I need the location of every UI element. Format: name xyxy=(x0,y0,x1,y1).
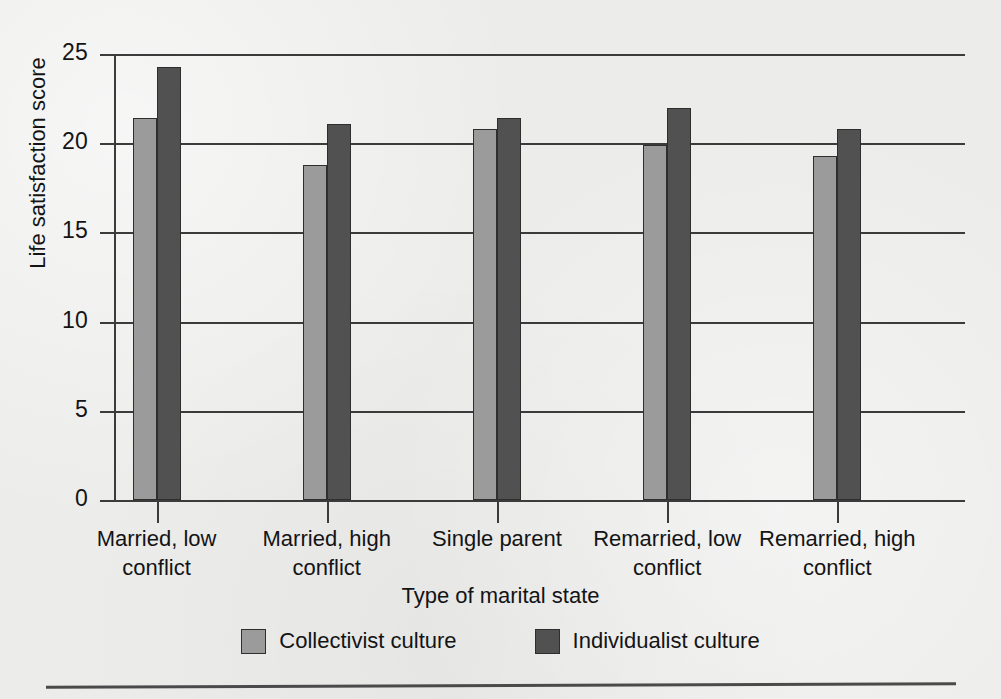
bar-collectivist-0 xyxy=(133,118,157,500)
x-category-label-line1-4: Remarried, high xyxy=(732,524,942,553)
legend-label-0: Collectivist culture xyxy=(279,628,456,654)
x-category-label-4: Remarried, highconflict xyxy=(732,524,942,582)
legend-swatch-icon-0 xyxy=(241,629,266,654)
y-tick-mark-20 xyxy=(100,143,114,145)
y-axis-title: Life satisfaction score xyxy=(25,13,51,313)
bar-chart-figure: 0510152025 Married, lowconflictMarried, … xyxy=(0,0,1001,699)
x-tick-mark-3 xyxy=(667,501,669,523)
y-tick-mark-0 xyxy=(100,500,114,502)
y-tick-mark-5 xyxy=(100,411,114,413)
bar-individualist-1 xyxy=(327,124,351,500)
y-tick-label-5: 5 xyxy=(28,396,88,423)
legend-swatch-icon-1 xyxy=(535,629,560,654)
x-category-label-line2-1: conflict xyxy=(222,553,432,582)
x-axis-title: Type of marital state xyxy=(0,583,1001,609)
x-category-label-line2-4: conflict xyxy=(732,553,942,582)
y-tick-mark-15 xyxy=(100,232,114,234)
legend-item-collectivist: Collectivist culture xyxy=(241,628,456,654)
bar-collectivist-1 xyxy=(303,165,327,500)
bar-collectivist-2 xyxy=(473,129,497,500)
y-tick-mark-10 xyxy=(100,322,114,324)
bar-individualist-2 xyxy=(497,118,521,500)
legend-label-1: Individualist culture xyxy=(573,628,760,654)
bar-individualist-0 xyxy=(157,67,181,501)
x-tick-mark-0 xyxy=(157,501,159,523)
chart-legend: Collectivist cultureIndividualist cultur… xyxy=(0,628,1001,654)
bar-collectivist-4 xyxy=(813,156,837,500)
x-tick-mark-4 xyxy=(837,501,839,523)
bottom-divider-rule xyxy=(46,682,956,688)
bar-collectivist-3 xyxy=(643,145,667,500)
y-tick-mark-25 xyxy=(100,54,114,56)
bar-individualist-4 xyxy=(837,129,861,500)
bar-individualist-3 xyxy=(667,108,691,500)
plot-area xyxy=(114,54,965,500)
y-tick-label-0: 0 xyxy=(28,485,88,512)
x-tick-mark-1 xyxy=(327,501,329,523)
legend-item-individualist: Individualist culture xyxy=(535,628,760,654)
x-tick-mark-2 xyxy=(497,501,499,523)
